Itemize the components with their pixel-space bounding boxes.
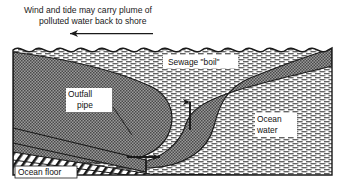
- diagram-canvas: Wind and tide may carry plume of pollute…: [0, 0, 345, 192]
- caption-line-1: Wind and tide may carry plume of: [24, 5, 153, 15]
- caption-line-2: polluted water back to shore: [39, 16, 147, 26]
- outfall-pipe-label-line2: pipe: [77, 100, 93, 110]
- sewage-boil-label: Sewage "boil": [163, 55, 238, 68]
- ocean-floor-label: Ocean floor: [15, 166, 77, 178]
- sewage-boil-label-text: Sewage "boil": [168, 57, 220, 67]
- ocean-water-label: Ocean water: [255, 113, 297, 137]
- ocean-outfall-diagram: Wind and tide may carry plume of pollute…: [0, 0, 345, 192]
- ocean-water-label-line2: water: [256, 125, 278, 135]
- outfall-pipe-label-line1: Outfall: [68, 89, 92, 99]
- ocean-water-label-line1: Ocean: [257, 114, 282, 124]
- ocean-floor-label-text: Ocean floor: [18, 167, 62, 177]
